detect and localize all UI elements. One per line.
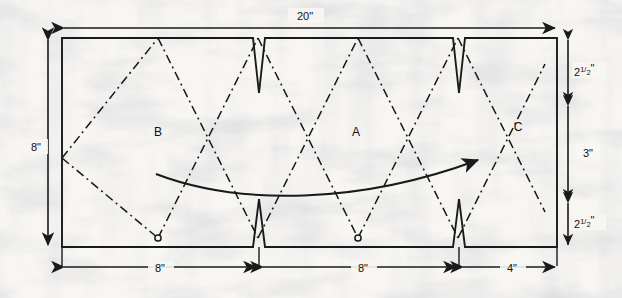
part-label-c: C: [514, 120, 523, 134]
dimension-label-top-20: 20": [297, 10, 313, 22]
diagram-canvas: 20" 8" 21/2" 3" 21/2" 8" 8" 4" B A C: [0, 0, 622, 298]
dimension-label-left-8: 8": [31, 141, 41, 153]
fold-motion-arrow: [156, 160, 478, 196]
dimension-label-bottom-4: 4": [507, 262, 517, 274]
dimension-label-bottom-right-8: 8": [358, 262, 368, 274]
part-label-a: A: [352, 125, 360, 139]
dim-right-top-unit: ": [591, 62, 595, 74]
dimension-label-bottom-left-8: 8": [155, 262, 165, 274]
diagram-linework: 20" 8" 21/2" 3" 21/2" 8" 8" 4" B A C: [0, 0, 622, 298]
dimension-bottom-extensions: [62, 247, 557, 266]
dimension-label-right-middle: 3": [583, 147, 593, 159]
fold-lines: [62, 38, 545, 238]
dim-right-bottom-unit: ": [591, 214, 595, 226]
part-label-b: B: [154, 125, 162, 139]
